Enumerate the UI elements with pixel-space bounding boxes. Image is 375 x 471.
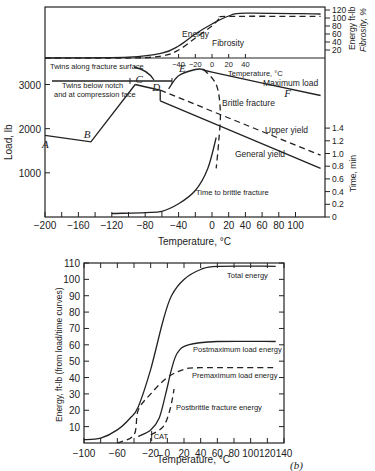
y2-tick-label: 0.6 bbox=[332, 174, 344, 184]
inset-x-label: Temperature, °C bbox=[228, 69, 283, 78]
x-tick-label: −60 bbox=[109, 448, 126, 459]
premax-label: Premaximum load energy bbox=[192, 371, 278, 380]
y2-time-label: Time, min bbox=[348, 155, 358, 192]
x-tick-label: −200 bbox=[34, 220, 57, 231]
x-tick-label: 60 bbox=[257, 220, 269, 231]
y-tick-label: 2000 bbox=[19, 124, 42, 135]
inset-x-tick-label: 40 bbox=[241, 60, 249, 69]
inset-y-tick-label: 120 bbox=[332, 5, 346, 15]
inset-x-tick-label: −20 bbox=[189, 60, 202, 69]
y-tick-label: 1000 bbox=[19, 168, 42, 179]
y2-fibrosity-label: Fibrosity, % bbox=[358, 8, 368, 52]
x-tick-label: 140 bbox=[276, 448, 293, 459]
series-total-energy bbox=[84, 266, 276, 440]
y2-tick-label: 1.4 bbox=[332, 123, 344, 133]
panel-label-b: (b) bbox=[290, 459, 303, 471]
point-label-e: E bbox=[178, 62, 186, 74]
twins-below-label-1: Twins below notch bbox=[62, 81, 123, 90]
x-tick-label: 80 bbox=[273, 220, 285, 231]
x-axis-label-b: Temperature, °C bbox=[157, 454, 230, 465]
y-tick-label: 3000 bbox=[19, 80, 42, 91]
total-energy-label: Total energy bbox=[227, 271, 268, 280]
y-axis-label-b: Energy, ft-lb (from load/time curves) bbox=[54, 287, 64, 422]
x-tick-label: 60 bbox=[212, 448, 224, 459]
y2-tick-label: 0.2 bbox=[332, 199, 344, 209]
upper-yield-label: Upper yield bbox=[265, 125, 308, 135]
postmax-label: Postmaximum load energy bbox=[193, 345, 282, 354]
twins-along-label: Twins along fracture surface bbox=[50, 62, 144, 71]
x-tick-label: −160 bbox=[67, 220, 90, 231]
y2-tick-label: 1.0 bbox=[332, 149, 344, 159]
point-label-a: A bbox=[41, 138, 49, 150]
y-tick-label: 30 bbox=[69, 389, 81, 400]
y-tick-label: 20 bbox=[69, 405, 81, 416]
y2-tick-label: 0.8 bbox=[332, 161, 344, 171]
y-tick-label: 70 bbox=[69, 323, 81, 334]
x-tick-label: 120 bbox=[259, 448, 276, 459]
x-tick-label: 0 bbox=[165, 448, 171, 459]
twins-below-label-2: and at compression face bbox=[54, 90, 136, 99]
x-tick-label: 20 bbox=[223, 220, 235, 231]
chart-a-load-vs-temperature: 20406080100120Energy ft-lbFibrosity, %−4… bbox=[0, 0, 375, 250]
series-postmaximum-load-energy bbox=[138, 341, 276, 436]
inset-x-tick-label: 0 bbox=[210, 60, 214, 69]
y-tick-label: 80 bbox=[69, 307, 81, 318]
y2-tick-label: 0 bbox=[332, 212, 337, 222]
x-tick-label: −40 bbox=[170, 220, 187, 231]
series-premaximum-load-energy bbox=[117, 368, 275, 443]
cat-label: CAT bbox=[154, 432, 169, 441]
y-tick-label: 50 bbox=[69, 356, 81, 367]
series-postbrittle-fracture-energy bbox=[151, 389, 174, 435]
plot-frame-b bbox=[84, 263, 284, 443]
point-label-d: D bbox=[151, 81, 160, 93]
x-tick-label: 40 bbox=[240, 220, 252, 231]
general-yield-label: General yield bbox=[235, 149, 285, 159]
time-brittle-label: Time to brittle fracture bbox=[196, 188, 269, 197]
x-axis-label: Temperature, °C bbox=[158, 236, 231, 247]
x-tick-label: −100 bbox=[73, 448, 96, 459]
postbrittle-label: Postbrittle fracture energy bbox=[176, 403, 262, 412]
x-tick-label: −120 bbox=[101, 220, 124, 231]
y-tick-label: 100 bbox=[63, 274, 80, 285]
y-axis-label: Load, lb bbox=[3, 124, 14, 160]
x-tick-label: 40 bbox=[195, 448, 207, 459]
series-time-to-brittle-fracture bbox=[112, 138, 216, 214]
point-label-c: C bbox=[136, 73, 144, 85]
max-load-label: Maximum load bbox=[263, 78, 319, 88]
point-label-b: B bbox=[84, 128, 91, 140]
y-tick-label: 90 bbox=[69, 291, 81, 302]
brittle-fracture-label: Brittle fracture bbox=[222, 98, 275, 108]
x-tick-label: 20 bbox=[178, 448, 190, 459]
fibrosity-label: Fibrosity bbox=[212, 38, 245, 48]
y2-energy-label: Energy ft-lb bbox=[347, 6, 357, 50]
y-tick-label: 10 bbox=[69, 422, 81, 433]
inset-x-tick-label: 20 bbox=[225, 60, 233, 69]
y-tick-label: 40 bbox=[69, 373, 81, 384]
y-tick-label: 110 bbox=[64, 258, 80, 269]
x-tick-label: 80 bbox=[228, 448, 240, 459]
x-tick-label: −80 bbox=[137, 220, 154, 231]
point-label-f: F bbox=[283, 87, 291, 99]
y2-tick-label: 1.2 bbox=[332, 136, 344, 146]
x-tick-label: 0 bbox=[209, 220, 215, 231]
x-tick-label: −20 bbox=[142, 448, 159, 459]
x-tick-label: 100 bbox=[242, 448, 259, 459]
x-tick-label: 100 bbox=[287, 220, 304, 231]
y-tick-label: 60 bbox=[69, 340, 81, 351]
y2-tick-label: 0.4 bbox=[332, 187, 344, 197]
energy-label: Energy bbox=[182, 29, 210, 39]
